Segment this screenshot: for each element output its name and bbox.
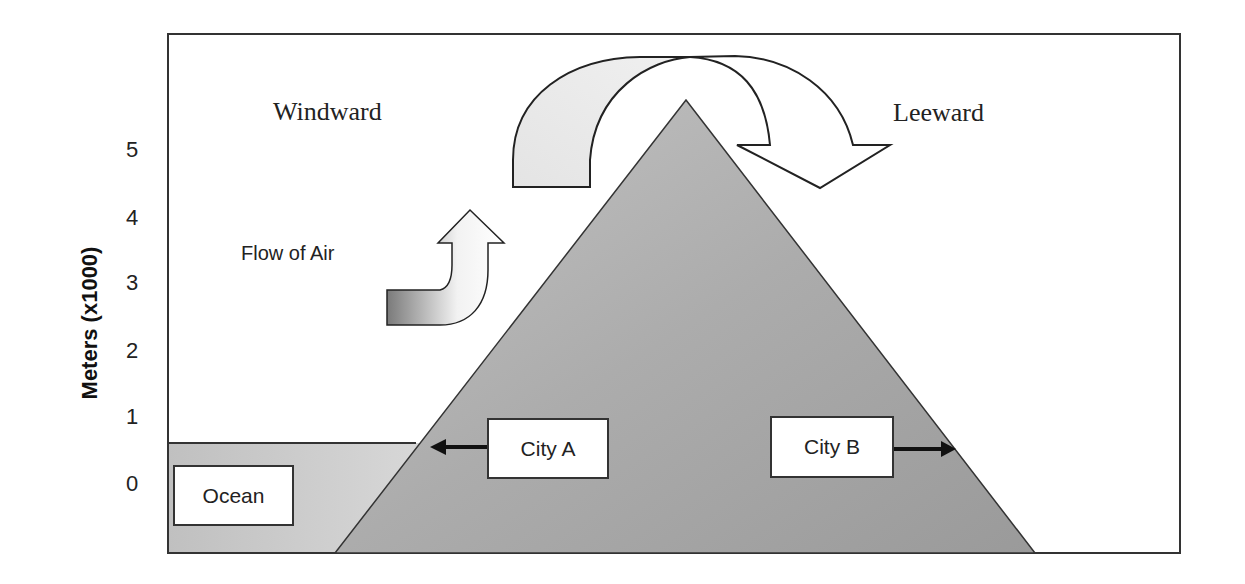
flow-of-air-label: Flow of Air [241, 242, 334, 265]
y-axis-label: Meters (x1000) [77, 213, 103, 433]
y-tick-2: 2 [117, 338, 147, 364]
windward-label: Windward [273, 97, 382, 127]
city-b-label-box: City B [770, 416, 894, 478]
y-tick-3: 3 [117, 270, 147, 296]
city-a-label-box: City A [487, 418, 609, 479]
y-tick-5: 5 [117, 137, 147, 163]
y-tick-4: 4 [117, 205, 147, 231]
y-tick-1: 1 [117, 404, 147, 430]
y-tick-0: 0 [117, 471, 147, 497]
ocean-label-box: Ocean [173, 465, 294, 526]
leeward-label: Leeward [893, 98, 984, 128]
